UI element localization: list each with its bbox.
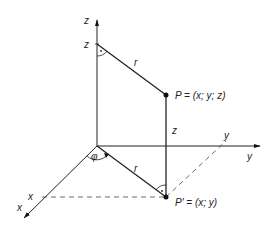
x-axis	[24, 146, 97, 218]
y-value-label: y	[223, 130, 230, 141]
x-value-label: x	[27, 191, 34, 202]
r-bottom-label: r	[134, 163, 138, 174]
z-axis-label: z	[83, 15, 89, 26]
right-angle-arc-top	[97, 51, 107, 56]
cylindrical-coordinates-diagram: z z r P = (x; y; z) z y y φ r x x P' = (…	[0, 0, 278, 236]
z-height-label: z	[171, 125, 177, 136]
phi-label: φ	[91, 151, 98, 162]
r-line-bottom	[97, 146, 166, 197]
r-top-label: r	[134, 57, 138, 68]
y-projection-dashed	[166, 141, 226, 197]
right-angle-arc-bottom	[156, 185, 166, 190]
y-axis-label: y	[246, 151, 253, 162]
point-P-label: P = (x; y; z)	[175, 90, 225, 101]
z-value-label: z	[83, 39, 89, 50]
point-P-prime-label: P' = (x; y)	[175, 197, 217, 208]
point-P	[164, 93, 169, 98]
point-P-prime	[164, 195, 169, 200]
r-line-top	[97, 44, 166, 95]
x-axis-label: x	[16, 202, 23, 213]
